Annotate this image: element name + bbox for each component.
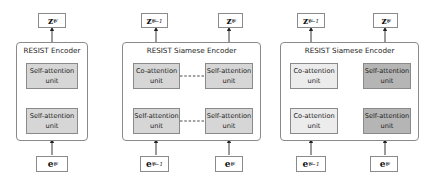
unit-label: Co-attention [293, 66, 334, 76]
unit-label: Co-attention [293, 111, 334, 121]
self-attention-unit: Self-attention unit [363, 63, 411, 89]
unit-label: Self-attention [365, 111, 410, 121]
output-vector-z-t: zwt [373, 13, 398, 28]
encoder-title: RESIST Siamese Encoder [280, 46, 419, 55]
self-attention-unit: Self-attention unit [363, 108, 411, 134]
output-vector-z-t-minus-1: zwt−1 [297, 13, 325, 28]
unit-label: unit [381, 121, 394, 131]
co-attention-unit: Co-attention unit [290, 108, 338, 134]
unit-label: unit [381, 76, 394, 86]
input-vector-e-t: ewt [370, 156, 398, 172]
unit-label: unit [308, 121, 321, 131]
input-vector-e-t-minus-1: ewt−1 [140, 156, 169, 172]
input-vector-e-t-minus-1: ewt−1 [296, 156, 326, 172]
co-attention-unit: Co-attention unit [290, 63, 338, 89]
unit-label: Self-attention [365, 66, 410, 76]
output-vector-z-t: zwt [218, 13, 243, 28]
output-vector-z-t-minus-1: zwt−1 [141, 13, 168, 28]
input-vector-e-t: ewt [215, 156, 243, 172]
unit-label: unit [308, 76, 321, 86]
